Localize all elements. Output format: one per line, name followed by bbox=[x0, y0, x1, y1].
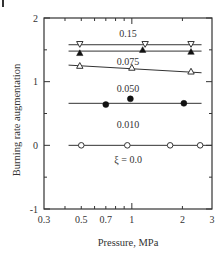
burning-rate-chart: 0.30.50.7123-1012 0.150.0750.0500.010ξ =… bbox=[0, 0, 224, 254]
x-tick-label: 1 bbox=[129, 214, 134, 225]
open-circle-marker bbox=[197, 143, 203, 149]
open-up-triangle-marker bbox=[188, 68, 194, 74]
series-label: ξ = 0.0 bbox=[114, 154, 142, 166]
x-axis-title: Pressure, MPa bbox=[98, 237, 159, 248]
axis-ticks bbox=[44, 18, 212, 209]
open-circle-marker bbox=[78, 143, 84, 149]
y-tick-label: 1 bbox=[33, 76, 38, 87]
x-tick-label: 0.3 bbox=[38, 214, 51, 225]
y-tick-label: -1 bbox=[30, 204, 38, 215]
filled-circle-marker bbox=[181, 100, 187, 106]
series-fit-lines bbox=[69, 45, 212, 146]
x-tick-label: 0.7 bbox=[100, 214, 113, 225]
series-label: 0.050 bbox=[117, 83, 140, 94]
series-label: 0.010 bbox=[117, 119, 140, 130]
open-circle-marker bbox=[125, 143, 131, 149]
x-tick-label: 2 bbox=[180, 214, 185, 225]
series-markers bbox=[77, 42, 203, 149]
plot-frame bbox=[44, 18, 212, 209]
series-label: 0.075 bbox=[117, 56, 140, 67]
y-axis-title: Burning rate augmentation bbox=[11, 63, 22, 176]
x-tick-label: 0.5 bbox=[75, 214, 88, 225]
filled-circle-marker bbox=[127, 96, 133, 102]
plot-border bbox=[44, 18, 212, 209]
y-tick-label: 2 bbox=[33, 13, 38, 24]
y-tick-label: 0 bbox=[33, 140, 38, 151]
series-label: 0.15 bbox=[119, 28, 137, 39]
x-tick-label: 3 bbox=[210, 214, 215, 225]
open-circle-marker bbox=[167, 143, 173, 149]
filled-circle-marker bbox=[103, 102, 109, 108]
